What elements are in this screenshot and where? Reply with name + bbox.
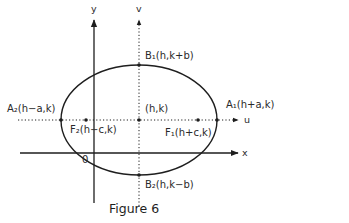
point-f1 — [196, 118, 200, 122]
figure-caption: Figure 6 — [109, 201, 159, 216]
label-f2: F₂(h−c,k) — [70, 124, 117, 135]
label-b1: B₁(h,k+b) — [145, 50, 194, 61]
point-f2 — [84, 118, 88, 122]
label-b2: B₂(h,k−b) — [145, 179, 194, 190]
origin-label: 0 — [82, 154, 88, 165]
ellipse-figure: x y u v 0 A₂(h−a,k) F₂(h−c,k) (h,k) F₁(h… — [0, 0, 349, 223]
point-b1 — [137, 63, 141, 67]
y-axis-label: y — [91, 3, 97, 14]
label-center: (h,k) — [145, 103, 168, 114]
point-a2 — [59, 118, 63, 122]
x-axis-label: x — [242, 147, 248, 158]
point-a1 — [215, 118, 219, 122]
point-center — [137, 118, 141, 122]
label-a2: A₂(h−a,k) — [7, 103, 56, 114]
u-axis-label: u — [244, 114, 250, 125]
label-f1: F₁(h+c,k) — [165, 127, 212, 138]
v-axis-label: v — [136, 3, 142, 14]
label-a1: A₁(h+a,k) — [226, 99, 275, 110]
point-b2 — [137, 173, 141, 177]
